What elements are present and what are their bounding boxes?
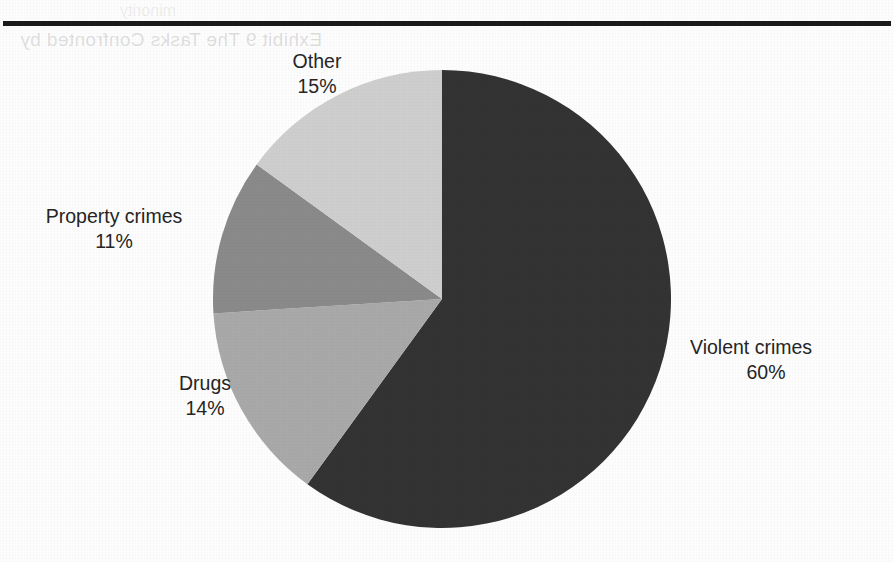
slice-label-other-value: 15% xyxy=(247,74,387,99)
slice-label-other: Other 15% xyxy=(247,49,387,99)
chart-page: minority Exhibit 9 The Tasks Confronted … xyxy=(0,0,894,562)
slice-label-property-crimes: Property crimes 11% xyxy=(22,204,206,254)
slice-label-other-title: Other xyxy=(247,49,387,74)
pie-slice-group xyxy=(213,70,671,528)
slice-label-violent-crimes: Violent crimes 60% xyxy=(690,335,870,385)
slice-label-violent-crimes-value: 60% xyxy=(690,360,842,385)
slice-label-property-crimes-title: Property crimes xyxy=(22,204,206,229)
slice-label-drugs-title: Drugs xyxy=(140,371,270,396)
slice-label-drugs: Drugs 14% xyxy=(140,371,270,421)
slice-label-drugs-value: 14% xyxy=(140,396,270,421)
pie-chart xyxy=(0,0,894,562)
slice-label-property-crimes-value: 11% xyxy=(22,229,206,254)
slice-label-violent-crimes-title: Violent crimes xyxy=(690,335,870,360)
